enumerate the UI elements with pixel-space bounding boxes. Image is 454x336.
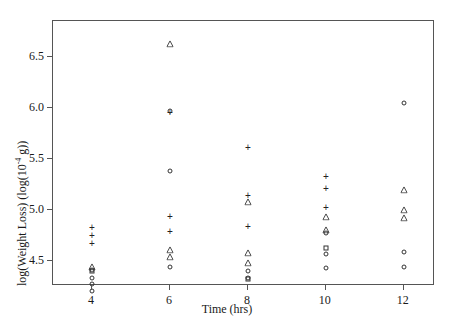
y-axis-label-suffix: g)) [15,141,29,158]
circle-marker-icon [401,100,406,105]
circle-marker-icon [323,231,328,236]
x-tick-mark [169,285,170,290]
circle-marker-icon [401,264,406,269]
circle-marker-icon [323,252,328,257]
plus-marker-icon: + [245,222,251,232]
y-tick-label: 6.0 [16,99,44,114]
plus-marker-icon: + [323,203,329,213]
triangle-marker-icon [166,247,173,254]
circle-marker-icon [245,268,250,273]
plus-marker-icon: + [167,227,173,237]
circle-marker-icon [401,250,406,255]
x-tick-mark [91,285,92,290]
y-tick-mark [47,56,52,57]
plus-marker-icon: + [245,143,251,153]
x-axis-label: Time (hrs) [0,302,454,317]
y-tick-mark [47,260,52,261]
plus-marker-icon: + [167,212,173,222]
y-axis-label-exponent: -4 [14,158,23,165]
y-tick-mark [47,107,52,108]
triangle-marker-icon [400,206,407,213]
circle-marker-icon [323,265,328,270]
x-tick-mark [325,285,326,290]
plus-marker-icon: + [323,184,329,194]
triangle-marker-icon [244,250,251,257]
x-tick-mark [403,285,404,290]
square-marker-icon [323,246,328,251]
circle-marker-icon [167,264,172,269]
plus-marker-icon: + [89,239,95,249]
triangle-marker-icon [244,199,251,206]
plot-area: ++++++++++++ [52,20,434,285]
y-tick-mark [47,158,52,159]
y-tick-label: 6.5 [16,48,44,63]
plus-marker-icon: + [167,108,173,118]
triangle-marker-icon [166,254,173,261]
plus-marker-icon: + [323,172,329,182]
square-marker-icon [89,268,94,273]
circle-marker-icon [89,275,94,280]
triangle-marker-icon [400,214,407,221]
triangle-marker-icon [166,41,173,48]
scatter-plot-figure: ++++++++++++ 4681012 4.55.05.56.06.5 Tim… [0,0,454,336]
x-tick-mark [247,285,248,290]
y-axis-label: log(Weight Loss) (log(10-4 g)) [14,141,30,286]
y-axis-label-prefix: log(Weight Loss) (log(10 [15,164,29,286]
triangle-marker-icon [400,187,407,194]
y-tick-mark [47,209,52,210]
circle-marker-icon [167,168,172,173]
triangle-marker-icon [244,259,251,266]
square-marker-icon [245,276,250,281]
triangle-marker-icon [322,213,329,220]
